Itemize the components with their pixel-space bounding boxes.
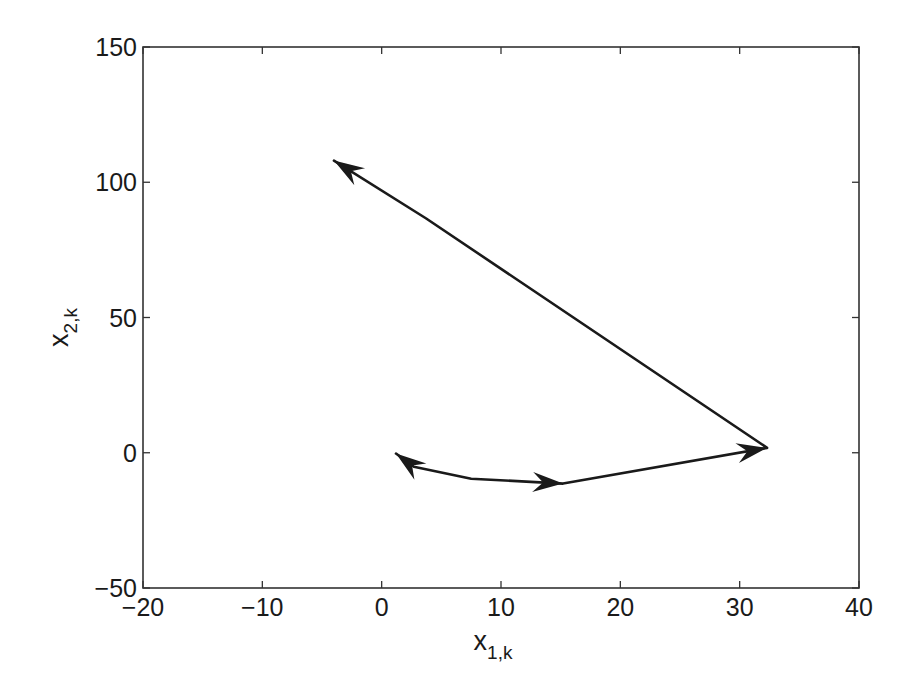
x-axis-label-main: x	[474, 626, 488, 656]
x-axis-label: x1,k	[474, 626, 513, 663]
y-tick-label: 50	[109, 304, 137, 332]
x-tick-label: 20	[606, 593, 634, 621]
x-tick-label: 40	[845, 593, 873, 621]
x-tick-label: −10	[241, 593, 283, 621]
x-axis-label-sub: 1,k	[487, 642, 513, 663]
y-tick-label: −50	[95, 574, 137, 602]
y-tick-label: 150	[95, 33, 137, 61]
y-axis-label: x2,k	[44, 308, 81, 347]
y-axis-label-main: x	[44, 333, 74, 347]
y-tick-label: 100	[95, 168, 137, 196]
plot-background	[143, 47, 859, 588]
x-tick-label: 10	[487, 593, 515, 621]
x-tick-label: 0	[375, 593, 389, 621]
y-axis-label-sub: 2,k	[60, 308, 81, 334]
y-tick-label: 0	[123, 439, 137, 467]
chart: −20−10010203040−50050100150 x1,k x2,k	[0, 0, 917, 697]
x-tick-label: 30	[726, 593, 754, 621]
